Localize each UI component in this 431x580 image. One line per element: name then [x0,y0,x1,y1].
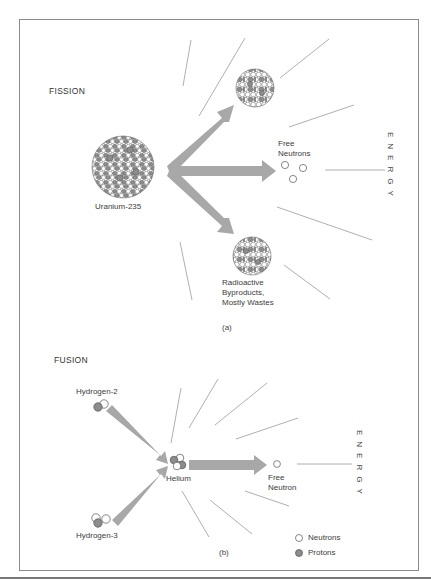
free-neutron-label-line1: Free [268,473,284,483]
byproducts-label-line1: Radioactive [222,278,264,288]
fission-fragment-bottom-nucleus [233,237,271,275]
hydrogen-2-nucleus [94,400,108,411]
helium-nucleus [170,454,186,470]
fusion-energy-label: ENERGY [355,430,364,500]
free-neutron-label-line2: Neutron [268,483,296,493]
helium-label: Helium [166,474,191,484]
fission-fragment-top-nucleus [236,69,274,107]
fission-fusion-diagram: FISSION Uranium-235 Free Neutrons Radioa… [0,0,431,580]
byproducts-label-line2: Byproducts, [222,288,264,298]
byproducts-label-line3: Mostly Wastes [222,298,274,308]
free-neutrons-label-line2: Neutrons [278,149,310,159]
free-neutrons-fission [281,161,306,182]
hydrogen-2-label: Hydrogen-2 [76,387,118,397]
uranium-235-nucleus [92,136,154,198]
fission-title: FISSION [49,86,85,96]
fusion-caption: (b) [219,548,229,557]
neutron-legend-icon [296,535,303,542]
fission-arrows [167,105,276,234]
proton-legend-icon [296,550,303,557]
free-neutron-fusion [274,461,281,468]
legend-symbols [296,535,303,557]
legend-protons-label: Protons [308,548,336,558]
free-neutrons-label-line1: Free [278,139,294,149]
fission-caption: (a) [222,323,232,332]
fission-energy-label: ENERGY [386,132,395,202]
fusion-title: FUSION [54,355,88,365]
fusion-energy-lines [171,379,352,537]
fusion-arrows [106,405,267,526]
legend-neutrons-label: Neutrons [308,533,340,543]
hydrogen-3-nucleus [92,514,110,527]
hydrogen-3-label: Hydrogen-3 [76,531,118,541]
uranium-235-label: Uranium-235 [95,202,141,212]
